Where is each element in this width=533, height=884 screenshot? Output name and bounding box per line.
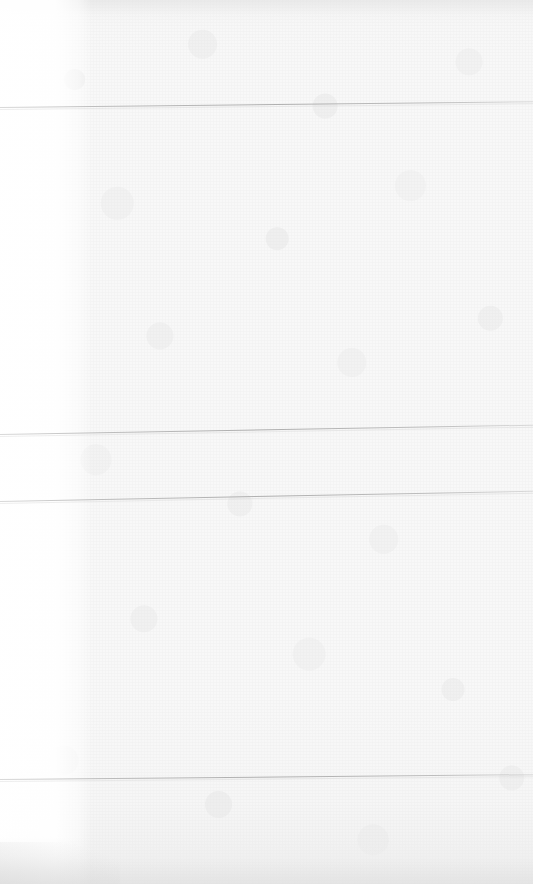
- bottom-left-shadow-patch: [0, 842, 120, 884]
- scanned-page: [0, 0, 533, 884]
- left-margin-strip: [0, 0, 92, 884]
